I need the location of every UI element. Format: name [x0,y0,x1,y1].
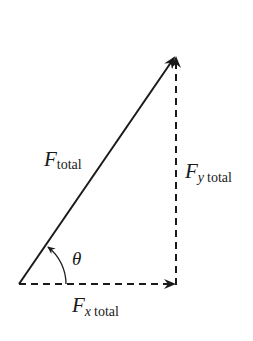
angle-label: θ [72,248,81,269]
force-diagram: Ftotal Fytotal Fxtotal θ [0,0,253,341]
total-force-label: Ftotal [43,147,82,172]
y-component-label: Fytotal [184,159,232,185]
x-component-label: Fxtotal [71,293,119,319]
total-force-arrow [19,58,174,284]
angle-arc [48,247,66,284]
